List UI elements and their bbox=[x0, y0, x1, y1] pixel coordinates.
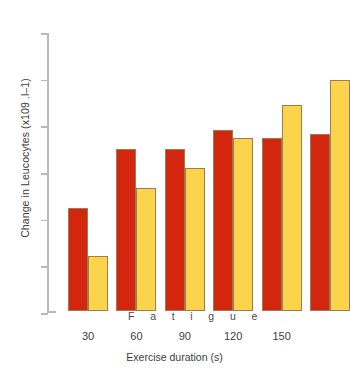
bar-series-red-2 bbox=[165, 149, 185, 311]
y-axis-tick bbox=[41, 33, 48, 35]
x-axis-foot bbox=[47, 311, 56, 313]
fatigue-annotation: F a t i g u e bbox=[128, 310, 264, 322]
y-axis-tick bbox=[41, 173, 48, 175]
bar-series-red-4 bbox=[262, 138, 282, 311]
y-axis-tick bbox=[41, 126, 48, 128]
bar-series-red-0 bbox=[68, 208, 88, 311]
y-axis-tick bbox=[41, 80, 48, 82]
x-axis-title: Exercise duration (s) bbox=[0, 351, 349, 363]
y-axis-tick bbox=[41, 313, 48, 315]
y-axis-tick bbox=[41, 266, 48, 268]
bar-series-yellow-5 bbox=[330, 80, 350, 311]
bar-series-yellow-4 bbox=[282, 105, 302, 311]
bar-series-yellow-2 bbox=[185, 168, 205, 311]
x-axis-tick-label: 150 bbox=[252, 330, 312, 342]
y-axis-tick bbox=[41, 220, 48, 222]
plot-area: 0123456 bbox=[47, 31, 337, 313]
bar-series-red-3 bbox=[213, 130, 233, 311]
y-axis-title: Change in Leucocytes (x109 .l–1) bbox=[19, 13, 31, 303]
bar-series-red-5 bbox=[310, 134, 330, 311]
bar-series-red-1 bbox=[116, 149, 136, 311]
y-axis-title-container: Change in Leucocytes (x109 .l–1) bbox=[0, 0, 28, 330]
bar-series-yellow-0 bbox=[88, 256, 108, 311]
bar-series-yellow-3 bbox=[233, 138, 253, 311]
bar-series-yellow-1 bbox=[136, 188, 156, 311]
